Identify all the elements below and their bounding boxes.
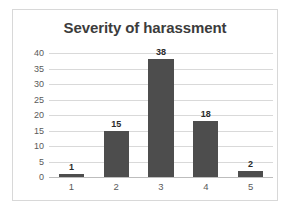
bar-slot: 1 bbox=[49, 53, 94, 177]
y-axis-tick-label: 15 bbox=[34, 126, 44, 135]
bar[interactable]: 15 bbox=[104, 131, 129, 178]
chart-container: Severity of harassment 4035302520151050 … bbox=[12, 9, 278, 201]
bar-series: 11538182 bbox=[49, 53, 273, 177]
y-axis-tick-label: 35 bbox=[34, 64, 44, 73]
y-axis-tick-label: 40 bbox=[34, 49, 44, 58]
x-axis-tick-label: 4 bbox=[183, 181, 228, 193]
bar-value-label: 15 bbox=[111, 120, 121, 129]
bar-slot: 15 bbox=[94, 53, 139, 177]
y-axis-tick-label: 10 bbox=[34, 142, 44, 151]
bar-slot: 2 bbox=[228, 53, 273, 177]
bar-slot: 38 bbox=[139, 53, 184, 177]
bar[interactable]: 1 bbox=[59, 174, 84, 177]
x-axis-tick-label: 5 bbox=[228, 181, 273, 193]
y-axis-tick-label: 25 bbox=[34, 95, 44, 104]
bar-value-label: 18 bbox=[201, 110, 211, 119]
y-axis-tick-label: 30 bbox=[34, 80, 44, 89]
bar[interactable]: 18 bbox=[193, 121, 218, 177]
bar-value-label: 38 bbox=[156, 48, 166, 57]
chart-title: Severity of harassment bbox=[13, 19, 277, 37]
bar-value-label: 2 bbox=[248, 160, 253, 169]
bar[interactable]: 38 bbox=[148, 59, 173, 177]
y-axis-tick-label: 0 bbox=[39, 173, 44, 182]
y-axis-tick-label: 20 bbox=[34, 111, 44, 120]
x-axis-tick-label: 2 bbox=[94, 181, 139, 193]
plot-area: 4035302520151050 11538182 bbox=[49, 53, 273, 177]
x-axis-tick-label: 1 bbox=[49, 181, 94, 193]
bar-value-label: 1 bbox=[69, 163, 74, 172]
bar-slot: 18 bbox=[183, 53, 228, 177]
x-axis-tick-labels: 12345 bbox=[49, 181, 273, 193]
bar[interactable]: 2 bbox=[238, 171, 263, 177]
y-axis-tick-label: 5 bbox=[39, 157, 44, 166]
axis-baseline bbox=[49, 177, 273, 178]
x-axis-tick-label: 3 bbox=[139, 181, 184, 193]
